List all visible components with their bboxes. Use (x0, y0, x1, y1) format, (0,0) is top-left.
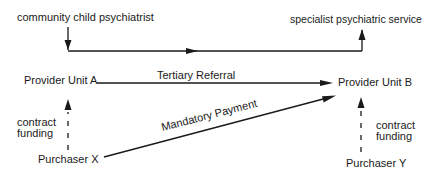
label-contract-funding-left: contract funding (17, 117, 56, 139)
node-provider-unit-a: Provider Unit A (24, 74, 97, 86)
node-community-child-psychiatrist: community child psychiatrist (17, 11, 154, 23)
contract-funding-left-arrow (65, 99, 72, 150)
contract-funding-right-arrow (358, 97, 365, 152)
node-provider-unit-b: Provider Unit B (338, 76, 412, 88)
label-contract-funding-right: contract funding (376, 120, 415, 142)
node-specialist-psychiatric-service: specialist psychiatric service (290, 13, 422, 25)
referral-path-arrow (65, 27, 366, 54)
label-contract-funding-right-line2: funding (376, 131, 415, 142)
node-purchaser-y: Purchaser Y (346, 157, 406, 169)
node-purchaser-x: Purchaser X (38, 153, 99, 165)
label-contract-funding-left-line2: funding (17, 128, 56, 139)
label-tertiary-referral: Tertiary Referral (157, 69, 235, 81)
